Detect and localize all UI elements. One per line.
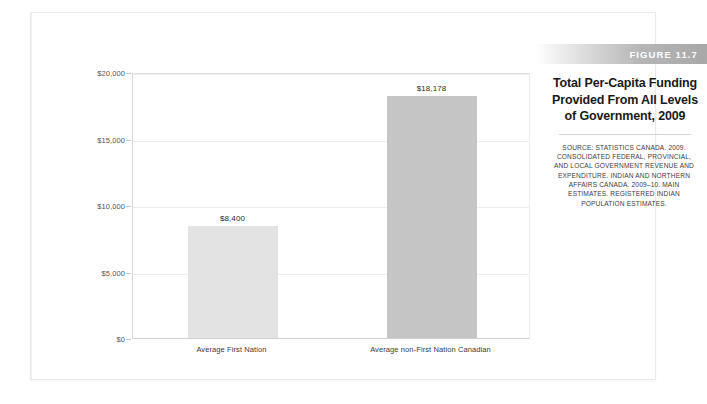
bar-value-label: $8,400 (173, 214, 293, 223)
bar[interactable] (188, 226, 278, 338)
y-axis-tickmark (126, 140, 131, 141)
figure-title: Total Per-Capita Funding Provided From A… (535, 75, 707, 125)
caption-divider (559, 134, 691, 135)
y-axis-tickmark (126, 206, 131, 207)
plot-area: $8,400$18,178 (132, 73, 530, 339)
gridline (133, 74, 529, 75)
bar-value-label: $18,178 (372, 84, 492, 93)
y-axis-tickmark (126, 273, 131, 274)
y-axis-tickmark (126, 73, 131, 74)
y-axis-tickmarks (65, 73, 135, 339)
figure-caption-panel: FIGURE 11.7 Total Per-Capita Funding Pro… (535, 44, 707, 224)
figure-number-band: FIGURE 11.7 (535, 44, 707, 64)
figure-number-label: FIGURE 11.7 (629, 49, 698, 60)
y-axis-tickmark (126, 339, 131, 340)
bar-chart: $0$5,000$10,000$15,000$20,000 $8,400$18,… (65, 33, 535, 373)
figure-source-note: SOURCE: STATISTICS CANADA. 2009. CONSOLI… (535, 143, 707, 209)
bar[interactable] (387, 96, 477, 338)
x-axis-category-labels: Average First NationAverage non-First Na… (132, 345, 530, 365)
x-axis-category-label: Average First Nation (142, 345, 322, 354)
x-axis-category-label: Average non-First Nation Canadian (341, 345, 521, 354)
figure-page: $0$5,000$10,000$15,000$20,000 $8,400$18,… (30, 12, 656, 380)
